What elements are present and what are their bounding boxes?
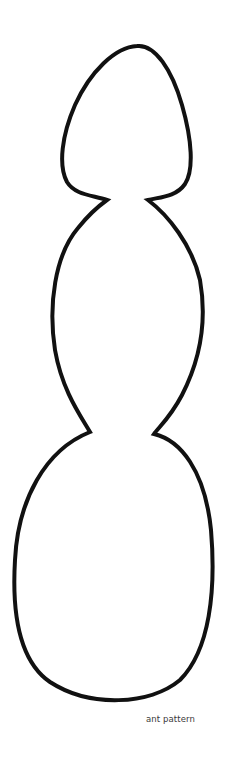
ant-pattern-outline (0, 0, 229, 771)
pattern-caption: ant pattern (146, 714, 195, 724)
ant-body-outline (14, 46, 212, 700)
